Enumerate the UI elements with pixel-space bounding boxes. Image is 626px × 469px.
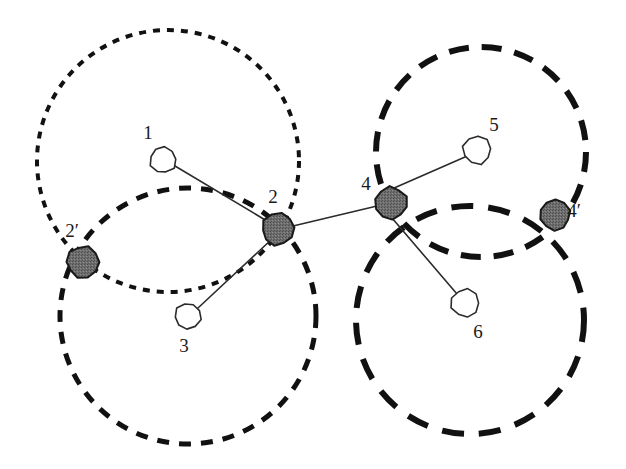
diagram-canvas: 122′344′56 xyxy=(0,0,626,469)
edges-layer xyxy=(175,157,465,308)
node-label-2p: 2′ xyxy=(65,220,79,241)
node-label-6: 6 xyxy=(473,321,483,342)
node-2[interactable] xyxy=(263,213,294,246)
coverage-circle-6 xyxy=(356,206,584,434)
node-label-2: 2 xyxy=(268,186,278,207)
node-label-1: 1 xyxy=(143,122,153,143)
node-4[interactable] xyxy=(375,186,407,220)
node-1[interactable] xyxy=(150,147,176,172)
node-label-3: 3 xyxy=(179,335,189,356)
edge-1-2 xyxy=(175,166,272,224)
edge-6-4 xyxy=(392,218,457,294)
nodes-layer xyxy=(67,136,571,329)
coverage-circles-layer xyxy=(37,30,586,444)
edge-5-4 xyxy=(385,157,465,192)
node-4p[interactable] xyxy=(540,199,570,230)
node-coverage-diagram: 122′344′56 xyxy=(0,0,626,469)
node-label-5: 5 xyxy=(489,114,499,135)
node-3[interactable] xyxy=(175,304,201,329)
node-labels-layer: 122′344′56 xyxy=(65,114,581,356)
edge-3-2 xyxy=(198,239,272,308)
node-label-4p: 4′ xyxy=(567,200,581,221)
node-5[interactable] xyxy=(462,136,490,164)
node-label-4: 4 xyxy=(361,173,371,194)
edge-2-4 xyxy=(293,206,377,226)
node-2p[interactable] xyxy=(67,246,100,277)
